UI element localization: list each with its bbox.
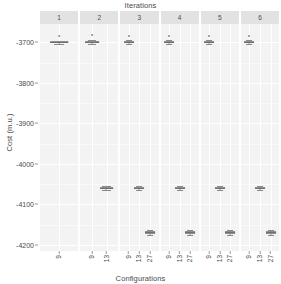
facet-strip-label: 1 [40, 11, 78, 24]
x-tick: 13 [176, 251, 183, 262]
x-tick-label: 13 [136, 255, 143, 262]
x-tick: 13 [136, 251, 143, 262]
x-tick-mark [92, 251, 93, 254]
median-line [255, 188, 265, 189]
y-axis-ticks: -3700-3800-3900-4000-4100-4200 [0, 0, 40, 284]
x-tick-label: 9 [125, 255, 132, 259]
x-tick: 27 [187, 251, 194, 262]
boxplot-box [124, 24, 134, 251]
median-line [124, 42, 134, 43]
outlier-point [168, 35, 170, 37]
x-tick-mark [128, 251, 129, 254]
x-tick-mark [270, 251, 271, 254]
x-tick: 27 [147, 251, 154, 262]
median-line [134, 188, 144, 189]
outlier-point [58, 35, 60, 37]
whisker-cap-lower [102, 190, 110, 191]
median-line [85, 42, 99, 43]
facet-column: 6 [241, 11, 279, 251]
facet-strip-label: 6 [241, 11, 279, 24]
x-tick-label: 27 [147, 255, 154, 262]
outlier-point [91, 34, 93, 36]
x-tick: 13 [217, 251, 224, 262]
whisker-cap-lower [54, 44, 65, 45]
x-axis-ticks: 991391327913279132791327 [40, 251, 279, 273]
whisker-cap-lower [257, 190, 263, 191]
boxplot-box [215, 24, 225, 251]
whisker-cap-lower [177, 190, 183, 191]
x-tick-mark [106, 251, 107, 254]
x-tick-mark [230, 251, 231, 254]
y-tick-label: -4000 [16, 160, 34, 167]
x-tick-mark [168, 251, 169, 254]
median-line [225, 232, 235, 233]
y-tick-label: -3800 [16, 79, 34, 86]
whisker-cap-lower [187, 235, 193, 236]
y-tick-mark [35, 42, 38, 43]
median-line [145, 232, 155, 233]
whisker-cap-lower [88, 44, 96, 45]
boxplot-box [204, 24, 214, 251]
facet-strip-label: 4 [161, 11, 199, 24]
whisker-cap-lower [166, 44, 172, 45]
whisker-cap-lower [206, 44, 212, 45]
median-line [204, 42, 214, 43]
boxplot-box [175, 24, 185, 251]
facet-panel [241, 24, 279, 251]
x-tick-mark [150, 251, 151, 254]
x-axis-facet-group: 91327 [120, 251, 158, 273]
x-tick-label: 13 [103, 255, 110, 262]
x-tick-label: 27 [187, 255, 194, 262]
x-tick-mark [190, 251, 191, 254]
x-tick: 9 [56, 251, 63, 259]
whisker-cap-lower [268, 235, 274, 236]
x-tick: 9 [166, 251, 173, 259]
facet-panel [161, 24, 199, 251]
y-tick-mark [35, 244, 38, 245]
boxplot-box [185, 24, 195, 251]
x-tick-mark [249, 251, 250, 254]
x-tick: 9 [246, 251, 253, 259]
x-tick: 13 [103, 251, 110, 262]
x-axis-facet-group: 91327 [241, 251, 279, 273]
boxplot-figure: Iterations Cost (m.u.) -3700-3800-3900-4… [0, 0, 281, 284]
x-tick-mark [179, 251, 180, 254]
boxplot-box [164, 24, 174, 251]
median-line [185, 232, 195, 233]
x-tick-label: 13 [176, 255, 183, 262]
x-tick-label: 13 [217, 255, 224, 262]
median-line [50, 42, 68, 43]
facet-strip-label: 2 [80, 11, 118, 24]
median-line [100, 188, 114, 189]
boxplot-box [85, 24, 99, 251]
y-tick-mark [35, 204, 38, 205]
facet-panel [40, 24, 78, 251]
facet-column: 5 [201, 11, 239, 251]
boxplot-box [134, 24, 144, 251]
boxplot-box [244, 24, 254, 251]
facet-panel [120, 24, 158, 251]
x-axis-facet-group: 91327 [201, 251, 239, 273]
boxplot-box [100, 24, 114, 251]
whisker-cap-lower [227, 235, 233, 236]
facet-column: 4 [161, 11, 199, 251]
whisker-cap-lower [136, 190, 142, 191]
x-tick-mark [139, 251, 140, 254]
boxplot-box [266, 24, 276, 251]
x-tick: 9 [125, 251, 132, 259]
whisker-cap-lower [147, 235, 153, 236]
y-tick-label: -3900 [16, 120, 34, 127]
y-tick-label: -3700 [16, 39, 34, 46]
x-tick-mark [209, 251, 210, 254]
x-tick-mark [259, 251, 260, 254]
x-tick-label: 9 [206, 255, 213, 259]
x-axis-facet-group: 913 [80, 251, 118, 273]
whisker-cap-lower [217, 190, 223, 191]
chart-title: Iterations [0, 1, 281, 10]
outlier-point [128, 35, 130, 37]
x-tick: 27 [267, 251, 274, 262]
median-line [164, 42, 174, 43]
x-tick-mark [219, 251, 220, 254]
facet-panels: 123456 [40, 11, 279, 251]
x-axis-title: Configurations [0, 274, 281, 283]
